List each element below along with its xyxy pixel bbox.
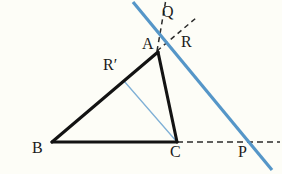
label-point-p: P xyxy=(238,144,247,160)
transversal-blue-line xyxy=(133,2,272,170)
side-ac-line xyxy=(158,52,177,142)
label-point-c: C xyxy=(170,144,181,160)
geometry-figure: Q A R R′ B C P xyxy=(0,0,282,174)
label-point-q: Q xyxy=(162,4,174,20)
label-point-a: A xyxy=(142,36,154,52)
label-point-b: B xyxy=(32,140,43,156)
label-point-r: R xyxy=(181,34,192,50)
label-point-r-prime: R′ xyxy=(103,57,117,73)
